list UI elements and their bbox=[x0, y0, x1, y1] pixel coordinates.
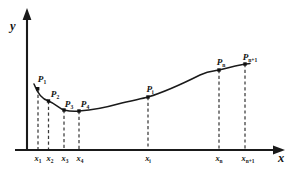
x-tick-label-i: xi bbox=[145, 155, 151, 163]
point-label-sub-1: 1 bbox=[43, 79, 46, 85]
point-label-base-n: P bbox=[217, 57, 223, 67]
data-point-marker-2 bbox=[47, 99, 50, 102]
point-label-4: P4 bbox=[81, 100, 89, 109]
x-tick-label-2: x2 bbox=[47, 155, 54, 163]
data-point-marker-i bbox=[146, 95, 149, 98]
data-point-marker-4 bbox=[77, 109, 80, 112]
point-label-base-3: P bbox=[65, 99, 71, 109]
x-tick-sub-i: i bbox=[149, 158, 151, 164]
point-label-i: Pi bbox=[146, 85, 153, 94]
point-label-sub-n1: n+1 bbox=[248, 57, 257, 63]
x-tick-sub-n1: n+1 bbox=[246, 158, 255, 164]
point-label-base-i: P bbox=[146, 84, 152, 94]
point-label-base-2: P bbox=[51, 89, 57, 99]
point-label-n1: Pn+1 bbox=[243, 53, 258, 62]
point-label-n: Pn bbox=[217, 58, 226, 67]
point-label-sub-i: i bbox=[152, 89, 154, 95]
data-point-marker-n bbox=[217, 68, 220, 71]
point-label-2: P2 bbox=[51, 90, 59, 99]
point-label-3: P3 bbox=[65, 100, 73, 109]
y-axis-title: y bbox=[10, 20, 16, 33]
point-label-sub-2: 2 bbox=[56, 94, 59, 100]
y-axis-group bbox=[23, 8, 32, 150]
x-axis-title: x bbox=[278, 152, 284, 165]
x-tick-sub-2: 2 bbox=[51, 158, 54, 164]
point-label-sub-4: 4 bbox=[86, 104, 89, 110]
point-label-sub-n: n bbox=[222, 62, 225, 68]
x-tick-sub-3: 3 bbox=[66, 158, 69, 164]
x-tick-sub-4: 4 bbox=[81, 158, 84, 164]
point-label-base-4: P bbox=[81, 99, 87, 109]
point-label-1: P1 bbox=[38, 75, 46, 84]
x-tick-label-3: x3 bbox=[62, 155, 69, 163]
spline-curve-figure: y x P1 P2 P3 P4 Pi Pn Pn+1 x1 x2 x3 x4 x… bbox=[0, 0, 295, 176]
x-tick-label-1: x1 bbox=[35, 155, 42, 163]
x-tick-label-n: xn bbox=[215, 155, 222, 163]
point-label-sub-3: 3 bbox=[70, 104, 73, 110]
data-point-marker-n1 bbox=[243, 62, 246, 65]
y-axis-arrowhead-icon bbox=[23, 8, 32, 20]
data-point-marker-1 bbox=[36, 87, 39, 90]
point-label-base-n1: P bbox=[243, 52, 249, 62]
x-tick-sub-1: 1 bbox=[39, 158, 42, 164]
point-label-base-1: P bbox=[38, 74, 44, 84]
x-tick-sub-n: n bbox=[220, 158, 223, 164]
x-tick-label-4: x4 bbox=[77, 155, 84, 163]
x-tick-label-n1: xn+1 bbox=[242, 155, 255, 163]
